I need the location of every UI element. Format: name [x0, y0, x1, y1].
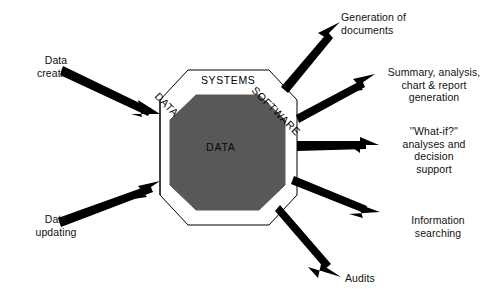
arrow-generation-documents: [281, 22, 340, 93]
label-what-if: ''What-if?'' analyses and decision suppo…: [382, 125, 486, 175]
label-generation-documents: Generation of documents: [341, 11, 461, 36]
diagram-canvas: SYSTEMS DATA SOFTWARE DATA Data creation…: [0, 0, 488, 295]
label-data-creation: Data creation: [22, 54, 90, 79]
arrow-audits: [275, 205, 341, 278]
arrow-information-searching: [291, 176, 380, 218]
arrow-what-if: [297, 137, 379, 153]
core-label-data: DATA: [206, 141, 236, 153]
label-information-searching: Information searching: [390, 214, 486, 239]
label-audits: Audits: [345, 272, 415, 285]
label-data-updating: Data updating: [20, 213, 92, 238]
arrow-summary-analysis: [296, 74, 375, 123]
ring-label-systems: SYSTEMS: [201, 74, 255, 86]
label-summary-analysis: Summary, analysis, chart & report genera…: [382, 66, 486, 104]
